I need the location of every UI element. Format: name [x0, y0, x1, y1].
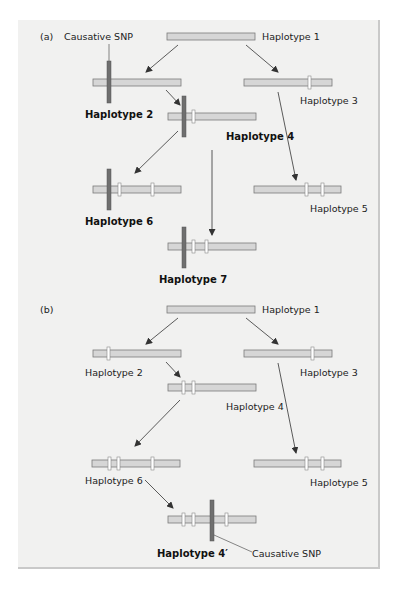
b-haplotype-5: Haplotype 5 [254, 457, 368, 488]
snp-marker-icon [225, 513, 228, 526]
b-haplotype-4-prime-label: Haplotype 4′ [157, 548, 228, 559]
a-haplotype-7: Haplotype 7 [159, 227, 256, 285]
causative-snp-icon [107, 169, 111, 210]
a-haplotype-6: Haplotype 6 [85, 169, 181, 227]
a-haplotype-4: Haplotype 4 [168, 96, 294, 142]
b-haplotype-3-label: Haplotype 3 [300, 367, 358, 378]
part-b-label: (b) [40, 304, 53, 315]
a-haplotype-2-label: Haplotype 2 [85, 109, 153, 120]
b-haplotype-4-label: Haplotype 4 [226, 401, 284, 412]
b-haplotype-3: Haplotype 3 [244, 347, 358, 378]
snp-marker-icon [192, 513, 195, 526]
arrow-icon [146, 318, 178, 344]
a-haplotype-3: Haplotype 3 [244, 76, 358, 106]
b-haplotype-4: Haplotype 4 [168, 381, 284, 412]
snp-marker-icon [205, 240, 208, 253]
snp-marker-icon [108, 457, 111, 470]
b-haplotype-5-label: Haplotype 5 [310, 477, 368, 488]
arrow-icon [166, 362, 180, 377]
arrow-icon [246, 45, 278, 72]
causative-snp-icon [107, 61, 111, 103]
arrow-icon [135, 131, 178, 173]
snp-marker-icon [107, 347, 110, 360]
b-haplotype-6-label: Haplotype 6 [85, 475, 143, 486]
a-haplotype-1-label: Haplotype 1 [262, 31, 320, 42]
arrow-icon [146, 45, 178, 72]
snp-marker-icon [311, 347, 314, 360]
part-a-label: (a) [40, 31, 53, 42]
arrow-icon [145, 480, 173, 508]
arrow-icon [166, 90, 180, 105]
a-haplotype-5-label: Haplotype 5 [310, 203, 368, 214]
snp-marker-icon [182, 513, 185, 526]
causative-snp-icon [182, 96, 186, 137]
a-haplotype-6-label: Haplotype 6 [85, 216, 153, 227]
snp-marker-icon [321, 457, 324, 470]
snp-marker-icon [118, 183, 121, 196]
b-haplotype-1: Haplotype 1 [167, 304, 320, 315]
snp-marker-icon [151, 183, 154, 196]
snp-marker-icon [192, 110, 195, 123]
b-haplotype-1-label: Haplotype 1 [262, 304, 320, 315]
snp-marker-icon [321, 183, 324, 196]
snp-marker-icon [308, 76, 311, 89]
snp-marker-icon [151, 457, 154, 470]
b-haplotype-4-prime: Haplotype 4′ [157, 500, 256, 559]
snp-marker-icon [192, 381, 195, 394]
snp-marker-icon [192, 240, 195, 253]
arrow-icon [135, 400, 180, 446]
snp-marker-icon [117, 457, 120, 470]
haplotype-diagram: (a) Haplotype 1 Causative SNP Haplotype … [0, 0, 397, 593]
a-haplotype-3-label: Haplotype 3 [300, 95, 358, 106]
snp-marker-icon [305, 183, 308, 196]
b-haplotype-2-label: Haplotype 2 [85, 367, 143, 378]
a-haplotype-7-label: Haplotype 7 [159, 274, 227, 285]
b-haplotype-6: Haplotype 6 [85, 457, 180, 486]
causative-snp-icon [210, 500, 214, 541]
snp-marker-icon [182, 381, 185, 394]
a-causative-snp-label: Causative SNP [64, 31, 133, 42]
a-haplotype-5: Haplotype 5 [254, 183, 368, 214]
arrow-icon [246, 318, 278, 344]
snp-marker-icon [305, 457, 308, 470]
causative-snp-icon [182, 227, 186, 268]
a-haplotype-4-label: Haplotype 4 [226, 131, 294, 142]
b-arrows [135, 318, 296, 508]
a-haplotype-1: Haplotype 1 [167, 31, 320, 42]
b-causative-snp-label: Causative SNP [252, 548, 321, 559]
